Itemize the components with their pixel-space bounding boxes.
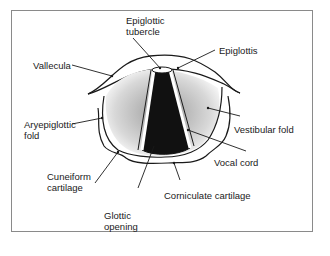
label-vallecula: Vallecula: [33, 61, 71, 72]
label-aryepiglottic-fold: Aryepiglottic fold: [24, 120, 76, 141]
label-cuneiform-cartilage: Cuneiform cartilage: [47, 172, 91, 193]
label-glottic-opening: Glottic opening: [104, 211, 138, 232]
label-corniculate-cartilage: Corniculate cartilage: [164, 191, 251, 202]
label-epiglottic-tubercle: Epiglottic tubercle: [126, 16, 165, 37]
label-vocal-cord: Vocal cord: [214, 158, 258, 169]
label-epiglottis: Epiglottis: [219, 46, 258, 57]
epiglottic-tubercle-shape: [152, 67, 172, 73]
label-vestibular-fold: Vestibular fold: [234, 125, 294, 136]
